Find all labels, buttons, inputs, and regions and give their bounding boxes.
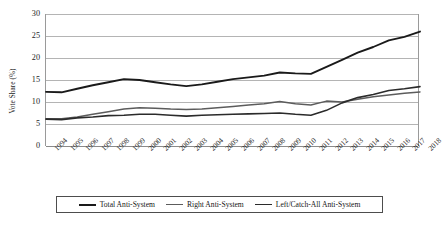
legend-item-label: Left/Catch-All Anti-System (276, 201, 361, 209)
x-axis-tick: 2000 (147, 147, 152, 152)
x-axis-tick: 1994 (53, 147, 58, 152)
chart-legend: Total Anti-SystemRight Anti-SystemLeft/C… (56, 196, 383, 213)
plot-area (45, 14, 419, 146)
x-axis-tick: 2004 (209, 147, 214, 152)
y-axis-tick: 15 (18, 76, 40, 84)
x-axis-tick: 2012 (334, 147, 339, 152)
legend-item: Total Anti-System (79, 201, 155, 209)
legend-line-swatch (166, 204, 183, 205)
legend-item: Right Anti-System (166, 201, 244, 209)
x-axis-tick: 1998 (115, 147, 120, 152)
x-axis-tick: 2001 (162, 147, 167, 152)
y-axis-tick-labels: 051015202530 (18, 0, 40, 170)
legend-item-label: Right Anti-System (187, 201, 244, 209)
x-axis-tick: 2006 (240, 147, 245, 152)
y-axis-tick: 0 (18, 142, 40, 150)
y-axis-tick: 25 (18, 32, 40, 40)
x-axis-tick-labels: 1994199519961997199819992000200120022003… (45, 147, 419, 191)
x-axis-tick: 2017 (411, 147, 416, 152)
x-axis-tick: 2016 (396, 147, 401, 152)
y-axis-tick: 5 (18, 120, 40, 128)
series-line (46, 32, 420, 93)
x-axis-tick: 2015 (380, 147, 385, 152)
y-axis-title-label: Vote Share (%) (9, 36, 17, 146)
x-axis-tick: 2014 (365, 147, 370, 152)
x-axis-tick: 2013 (349, 147, 354, 152)
legend-line-swatch (255, 204, 272, 205)
x-axis-tick: 2010 (302, 147, 307, 152)
series-lines (46, 14, 420, 146)
x-axis-tick: 2018 (427, 147, 432, 152)
x-axis-tick: 1999 (131, 147, 136, 152)
x-axis-tick: 1996 (84, 147, 89, 152)
x-axis-tick: 1995 (69, 147, 74, 152)
x-axis-tick: 2009 (287, 147, 292, 152)
y-axis-tick: 20 (18, 54, 40, 62)
x-axis-tick: 1997 (100, 147, 105, 152)
x-axis-tick: 2003 (193, 147, 198, 152)
x-axis-tick: 2005 (224, 147, 229, 152)
legend-line-swatch (79, 204, 96, 206)
x-axis-tick: 2007 (256, 147, 261, 152)
y-axis-tick: 10 (18, 98, 40, 106)
y-axis-title: Vote Share (%) (0, 40, 14, 150)
x-axis-tick: 2011 (318, 147, 323, 152)
legend-item: Left/Catch-All Anti-System (255, 201, 361, 209)
x-axis-tick: 2008 (271, 147, 276, 152)
y-axis-tick: 30 (18, 10, 40, 18)
x-axis-tick: 2002 (178, 147, 183, 152)
series-line (46, 87, 420, 120)
legend-item-label: Total Anti-System (100, 201, 155, 209)
